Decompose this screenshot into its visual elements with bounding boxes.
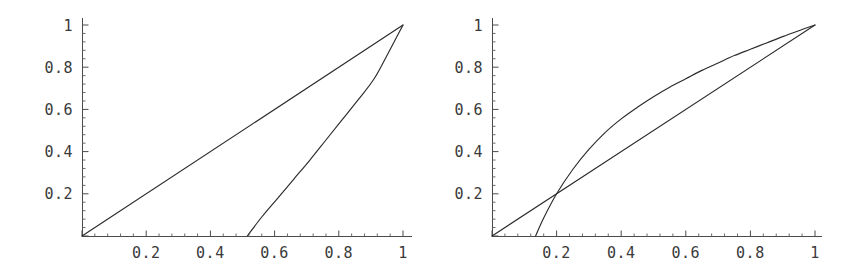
- x-tick-label: 1: [398, 244, 408, 262]
- y-tick-labels-left: 0.20.40.60.81: [44, 17, 73, 204]
- plot-left: 0.20.40.60.81 0.20.40.60.81: [0, 0, 430, 273]
- x-tick-label: 1: [810, 244, 820, 262]
- plot-right: 0.20.40.60.81 0.20.40.60.81: [430, 0, 861, 273]
- x-tick-label: 0.6: [260, 244, 289, 262]
- y-tick-label: 0.6: [454, 101, 483, 119]
- x-tick-label: 0.2: [542, 244, 571, 262]
- curves-left: [82, 25, 403, 236]
- y-tick-label: 0.8: [454, 59, 483, 77]
- x-ticks-right: [492, 231, 815, 237]
- chart-panel-left: 0.20.40.60.81 0.20.40.60.81: [0, 0, 430, 273]
- y-tick-label: 0.2: [454, 185, 483, 203]
- curve-diagonal: [82, 25, 403, 236]
- curve-upper-branch: [536, 25, 815, 236]
- y-ticks-right: [493, 25, 499, 236]
- x-tick-label: 0.8: [325, 244, 354, 262]
- x-tick-label: 0.2: [132, 244, 161, 262]
- y-tick-label: 0.4: [44, 143, 73, 161]
- y-tick-label: 0.2: [44, 185, 73, 203]
- y-tick-label: 0.6: [44, 101, 73, 119]
- x-ticks-left: [82, 231, 403, 237]
- x-tick-labels-right: 0.20.40.60.81: [542, 244, 819, 262]
- y-tick-label: 1: [473, 17, 483, 35]
- y-ticks-left: [83, 25, 89, 236]
- x-tick-label: 0.6: [672, 244, 701, 262]
- x-tick-label: 0.4: [607, 244, 636, 262]
- x-tick-labels-left: 0.20.40.60.81: [132, 244, 408, 262]
- x-tick-label: 0.4: [196, 244, 225, 262]
- figure-container: 0.20.40.60.81 0.20.40.60.81 0.20.40.60.8…: [0, 0, 861, 273]
- y-tick-label: 0.4: [454, 143, 483, 161]
- chart-panel-right: 0.20.40.60.81 0.20.40.60.81: [430, 0, 860, 273]
- x-tick-label: 0.8: [736, 244, 765, 262]
- curves-right: [492, 25, 815, 236]
- curve-diagonal: [492, 25, 815, 236]
- y-tick-label: 1: [63, 17, 73, 35]
- curve-lower-branch: [247, 25, 403, 236]
- y-tick-label: 0.8: [44, 59, 73, 77]
- y-tick-labels-right: 0.20.40.60.81: [454, 17, 483, 204]
